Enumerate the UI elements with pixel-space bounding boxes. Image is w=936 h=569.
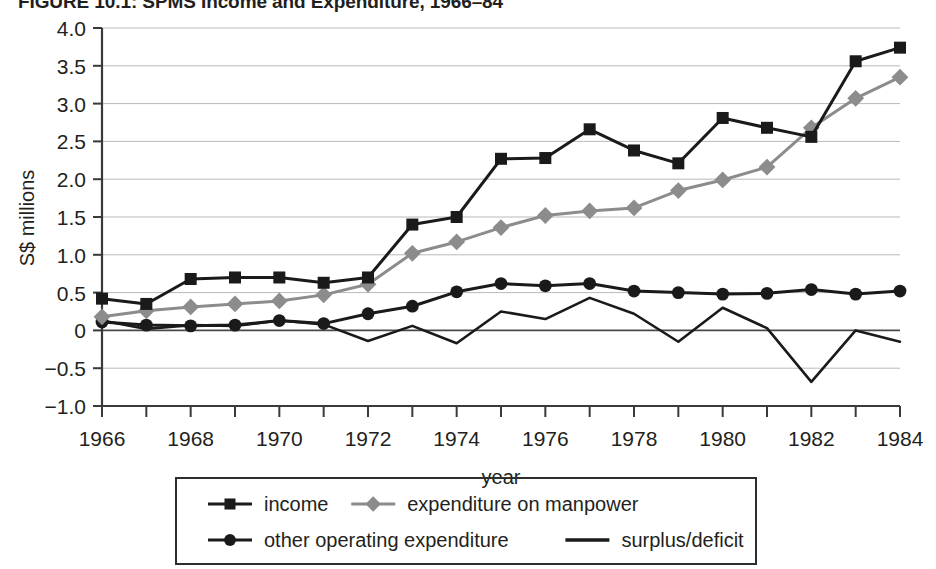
marker-circle xyxy=(539,279,552,292)
series-line xyxy=(102,48,900,304)
series-line xyxy=(102,298,900,382)
marker-square xyxy=(140,298,152,310)
marker-circle xyxy=(450,285,463,298)
marker-diamond xyxy=(626,200,643,217)
x-tick-label: 1984 xyxy=(877,427,924,450)
y-tick-label: −0.5 xyxy=(45,357,86,380)
marker-circle xyxy=(894,285,907,298)
marker-square xyxy=(229,271,241,283)
legend-label: surplus/deficit xyxy=(621,529,744,551)
marker-circle xyxy=(628,285,641,298)
marker-diamond xyxy=(537,207,554,224)
marker-circle xyxy=(761,287,774,300)
marker-square xyxy=(406,219,418,231)
marker-diamond xyxy=(227,296,244,313)
marker-square xyxy=(761,122,773,134)
marker-diamond xyxy=(365,496,380,511)
marker-circle xyxy=(495,277,508,290)
y-tick-label: −1.0 xyxy=(45,395,86,418)
legend: incomeexpenditure on manpowerother opera… xyxy=(176,478,756,564)
marker-diamond xyxy=(271,293,288,310)
marker-square xyxy=(894,42,906,54)
marker-diamond xyxy=(714,172,731,189)
marker-circle xyxy=(583,277,596,290)
legend-label: other operating expenditure xyxy=(264,529,509,551)
y-tick-label: 4.0 xyxy=(57,17,86,40)
x-tick-label: 1978 xyxy=(611,427,658,450)
marker-circle xyxy=(672,286,685,299)
y-tick-label: 3.0 xyxy=(57,93,86,116)
marker-circle xyxy=(317,317,330,330)
axes xyxy=(93,28,900,417)
marker-circle xyxy=(140,319,153,332)
marker-circle xyxy=(406,300,419,313)
marker-square xyxy=(224,498,235,509)
y-axis-label: S$ millions xyxy=(16,170,38,267)
marker-square xyxy=(539,152,551,164)
marker-circle xyxy=(229,319,242,332)
marker-square xyxy=(362,271,374,283)
x-tick-label: 1968 xyxy=(167,427,214,450)
y-tick-labels: 4.03.53.02.52.01.51.00.50−0.5−1.0 xyxy=(45,17,86,418)
marker-square xyxy=(672,157,684,169)
marker-diamond xyxy=(892,69,909,86)
marker-diamond xyxy=(847,90,864,107)
marker-circle xyxy=(805,283,818,296)
marker-square xyxy=(96,293,108,305)
y-tick-label: 3.5 xyxy=(57,55,86,78)
chart-container: 4.03.53.02.52.01.51.00.50−0.5−1.0 196619… xyxy=(0,0,936,569)
legend-item-income[interactable]: income xyxy=(208,493,328,515)
x-tick-label: 1974 xyxy=(433,427,480,450)
x-tick-label: 1970 xyxy=(256,427,303,450)
x-tick-label: 1976 xyxy=(522,427,569,450)
marker-square xyxy=(628,144,640,156)
marker-circle xyxy=(184,319,197,332)
y-tick-label: 0 xyxy=(74,319,86,342)
marker-square xyxy=(185,273,197,285)
x-tick-label: 1982 xyxy=(788,427,835,450)
y-tick-label: 2.5 xyxy=(57,130,86,153)
legend-item-expenditure-on-manpower[interactable]: expenditure on manpower xyxy=(351,493,639,515)
x-tick-labels: 1966196819701972197419761978198019821984 xyxy=(79,427,924,450)
x-tick-label: 1966 xyxy=(79,427,126,450)
marker-square xyxy=(451,211,463,223)
line-chart: 4.03.53.02.52.01.51.00.50−0.5−1.0 196619… xyxy=(0,0,936,569)
legend-item-other-operating-expenditure[interactable]: other operating expenditure xyxy=(208,529,509,551)
y-tick-label: 0.5 xyxy=(57,282,86,305)
marker-square xyxy=(850,55,862,67)
marker-square xyxy=(717,112,729,124)
y-tick-label: 1.5 xyxy=(57,206,86,229)
y-tick-label: 2.0 xyxy=(57,168,86,191)
marker-diamond xyxy=(182,299,199,316)
marker-diamond xyxy=(315,286,332,303)
marker-circle xyxy=(362,307,375,320)
x-tick-label: 1980 xyxy=(699,427,746,450)
x-tick-label: 1972 xyxy=(345,427,392,450)
legend-label: expenditure on manpower xyxy=(407,493,639,515)
legend-item-surplus-deficit[interactable]: surplus/deficit xyxy=(565,529,744,551)
marker-circle xyxy=(224,534,236,546)
legend-label: income xyxy=(264,493,328,515)
marker-square xyxy=(495,153,507,165)
marker-circle xyxy=(273,314,286,327)
series-income xyxy=(96,42,906,310)
marker-square xyxy=(273,271,285,283)
series-surplus-deficit xyxy=(102,298,900,382)
marker-square xyxy=(584,123,596,135)
legend-border xyxy=(176,478,756,564)
marker-square xyxy=(805,131,817,143)
gridlines xyxy=(102,28,900,406)
marker-diamond xyxy=(448,234,465,251)
marker-diamond xyxy=(670,182,687,199)
marker-square xyxy=(318,277,330,289)
marker-circle xyxy=(849,288,862,301)
y-tick-label: 1.0 xyxy=(57,244,86,267)
marker-circle xyxy=(716,288,729,301)
marker-diamond xyxy=(493,219,510,236)
